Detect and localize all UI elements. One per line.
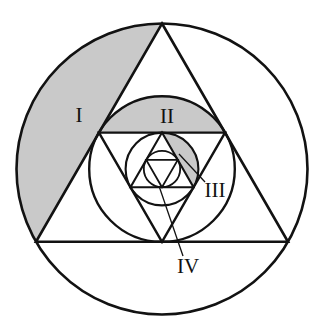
nested-geometry-figure: IIIIIIIV (0, 0, 328, 336)
region-label-i: I (76, 103, 83, 127)
region-label-iv: IV (177, 254, 199, 278)
figure-container: IIIIIIIV (0, 0, 328, 336)
region-label-iii: III (205, 178, 226, 202)
region-label-ii: II (160, 104, 174, 128)
